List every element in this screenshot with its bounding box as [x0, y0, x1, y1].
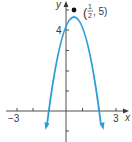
parabola-graph: y x −3 3 4 ( 1 2 , 5) — [0, 0, 132, 142]
vertex-x-denominator: 2 — [88, 12, 92, 19]
vertex-label: ( 1 2 , 5) — [83, 3, 107, 20]
x-tick-label-3: 3 — [113, 113, 119, 124]
y-axis-label: y — [55, 0, 62, 10]
curve-left-arrow-icon — [45, 122, 50, 130]
vertex-point — [72, 8, 77, 13]
y-tick-label-4: 4 — [56, 25, 62, 36]
vertex-x-numerator: 1 — [88, 3, 92, 10]
x-axis-label: x — [124, 112, 131, 123]
x-tick-label-neg3: −3 — [8, 113, 20, 124]
vertex-y-value: , 5) — [93, 6, 107, 17]
y-axis-arrow-icon — [64, 1, 69, 7]
